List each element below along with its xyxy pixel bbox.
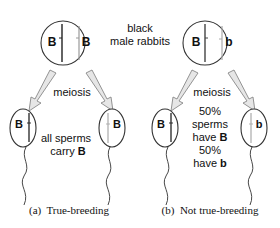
caption-b: (b) Not true-breeding [162, 204, 259, 217]
sperm-b-left: B [152, 109, 178, 205]
sperm-a-left: B [10, 109, 36, 205]
note-line: sperms [192, 118, 229, 130]
allele-label: B [48, 35, 57, 49]
allele-label: B [192, 35, 201, 49]
note-line: all sperms [41, 132, 92, 144]
allele-label: B [157, 118, 165, 130]
allele-label: B [113, 118, 121, 130]
process-label: meiosis [193, 86, 231, 98]
sperm-tail [106, 147, 111, 205]
sperm-tail [22, 147, 27, 205]
allele-label: b [256, 118, 263, 130]
sperm-tail [248, 147, 253, 205]
arrow-down-right-icon [228, 70, 255, 111]
process-label: meiosis [53, 86, 91, 98]
caption-a: (a) True-breeding [29, 204, 110, 217]
header-label-line2: male rabbits [110, 35, 170, 47]
meiosis-diagram: black male rabbits B B meiosis B [0, 0, 280, 228]
sperm-tail [164, 147, 169, 205]
note-line: have b [193, 157, 227, 169]
panel-a: B B meiosis B B all sperms carry B [10, 21, 125, 217]
note-line: have B [193, 131, 228, 143]
allele-label: b [225, 35, 232, 49]
sperm-a-right: B [99, 109, 125, 205]
note-line: 50% [199, 144, 221, 156]
arrow-down-left-icon [29, 70, 56, 111]
note-line: carry B [50, 145, 86, 157]
allele-label: B [82, 35, 91, 49]
panel-b: B b meiosis B b 50% sperms have B [152, 21, 267, 217]
header-label-line1: black [127, 22, 153, 34]
allele-label: B [15, 118, 23, 130]
note-line: 50% [199, 105, 221, 117]
sperm-b-right: b [241, 109, 267, 205]
